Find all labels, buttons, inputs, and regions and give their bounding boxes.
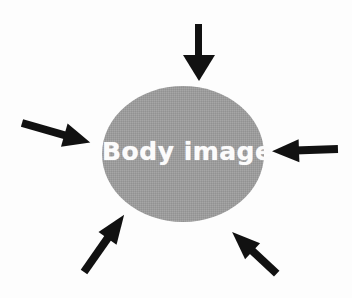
body-image-ellipse xyxy=(102,86,264,222)
top-arrow-shaft xyxy=(195,24,202,58)
right-arrow-head xyxy=(272,139,300,163)
bottom-left-arrow xyxy=(75,208,133,278)
body-image-diagram: Body image xyxy=(0,0,352,298)
bottom-right-arrow xyxy=(225,224,285,282)
diagram-canvas xyxy=(0,0,352,298)
top-arrow-head xyxy=(183,55,215,81)
left-arrow-head xyxy=(61,124,94,155)
right-arrow xyxy=(272,138,339,163)
bottom-left-arrow-shaft xyxy=(81,233,113,274)
top-arrow xyxy=(183,24,215,81)
left-arrow xyxy=(19,111,94,154)
left-arrow-shaft xyxy=(21,119,69,140)
right-arrow-shaft xyxy=(295,145,338,154)
